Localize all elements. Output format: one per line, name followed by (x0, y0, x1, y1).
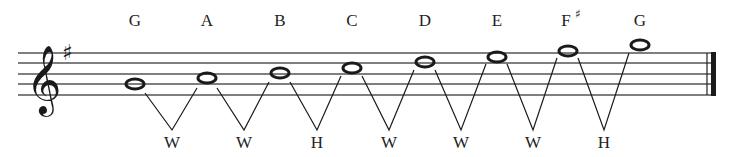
note-f-sharp5 (559, 46, 577, 56)
step-label: W (164, 133, 181, 152)
sharp-icon: ♯ (62, 40, 73, 65)
note-g5 (631, 40, 649, 50)
step-label: W (236, 133, 253, 152)
note-label: B (274, 11, 285, 30)
note-b4 (271, 68, 289, 78)
notes (126, 40, 649, 89)
note-label: E (492, 11, 502, 30)
step-label: H (311, 133, 323, 152)
scale-diagram: 𝄞 ♯ G A B C D E F ♯ G W W H W (0, 0, 733, 157)
step-label: H (598, 133, 610, 152)
note-c5 (343, 63, 361, 73)
step-labels: W W H W W W H (164, 133, 610, 152)
note-label: C (346, 11, 357, 30)
note-label: G (129, 11, 141, 30)
step-label: W (525, 133, 542, 152)
sharp-icon: ♯ (575, 7, 581, 21)
step-label: W (381, 133, 398, 152)
note-a4 (198, 73, 216, 83)
treble-clef-icon: 𝄞 (26, 44, 61, 117)
note-label: G (634, 11, 646, 30)
step-connectors (145, 53, 629, 130)
note-label: A (201, 11, 214, 30)
note-label: D (419, 11, 431, 30)
note-e5 (488, 52, 506, 62)
note-labels: G A B C D E F ♯ G (129, 7, 646, 30)
note-label: F (561, 11, 570, 30)
staff (18, 53, 711, 95)
step-label: W (453, 133, 470, 152)
note-d5 (416, 57, 434, 67)
